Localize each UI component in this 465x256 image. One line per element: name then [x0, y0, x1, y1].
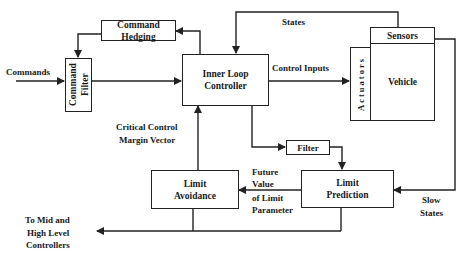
critical-control-label-2: Margin Vector [119, 135, 175, 146]
inner-loop-controller-label: Inner Loop Controller [196, 68, 256, 92]
future-value-label-2: Value [252, 179, 274, 190]
limit-prediction-block: Limit Prediction [301, 170, 394, 208]
inner-loop-controller-block: Inner Loop Controller [182, 54, 269, 106]
limit-avoidance-label: Limit Avoidance [170, 178, 220, 202]
filter-block: Filter [286, 140, 330, 155]
vehicle-label: Vehicle [388, 76, 417, 88]
to-mid-label-2: High Level [27, 228, 69, 239]
to-mid-label-1: To Mid and [25, 215, 70, 226]
command-filter-block: Command Filter [65, 58, 92, 112]
slow-states-label-2: States [420, 208, 443, 219]
future-value-label-3: of Limit [252, 193, 283, 204]
actuators-label: Actuators [355, 57, 367, 111]
control-inputs-label: Control Inputs [272, 63, 329, 74]
limit-prediction-label: Limit Prediction [323, 177, 373, 201]
states-label: States [282, 17, 305, 28]
slow-states-label-1: Slow [422, 195, 441, 206]
future-value-label-1: Future [252, 167, 278, 178]
actuators-block: Actuators [350, 47, 371, 121]
critical-control-label-1: Critical Control [116, 122, 178, 133]
sensors-block: Sensors [370, 27, 435, 44]
command-filter-label: Command Filter [67, 60, 91, 110]
command-hedging-block: Command Hedging [101, 20, 176, 41]
sensors-label: Sensors [387, 30, 418, 42]
future-value-label-4: Parameter [252, 205, 293, 216]
commands-label: Commands [6, 67, 50, 78]
vehicle-block: Vehicle [370, 43, 435, 121]
limit-avoidance-block: Limit Avoidance [151, 170, 239, 209]
command-hedging-label: Command Hedging [114, 19, 164, 43]
to-mid-label-3: Controllers [26, 240, 70, 251]
filter-label: Filter [297, 142, 319, 154]
